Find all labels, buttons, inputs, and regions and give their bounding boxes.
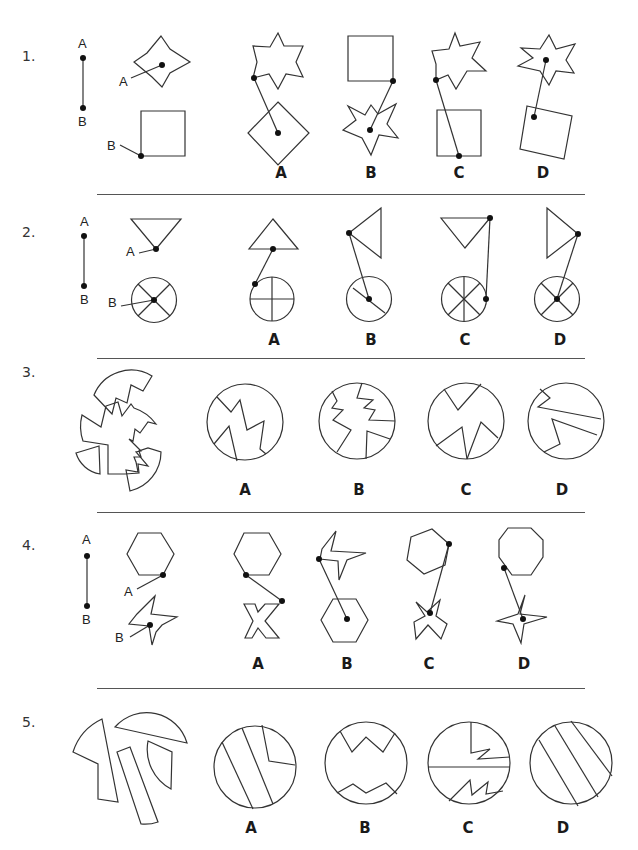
q5-option-b-figure[interactable] [325,722,407,804]
q2-key-segment [81,233,87,289]
q5-option-d-figure[interactable] [530,721,612,806]
q2-option-d-figure[interactable] [535,208,582,322]
q1-option-c-figure[interactable] [432,33,486,159]
q1-given-star-icon [131,36,190,87]
q4-key-segment [84,553,90,609]
q2-option-b-figure[interactable] [346,208,392,322]
q1-given-square-icon [120,111,185,159]
q1-key-segment [80,55,86,111]
q4-given-pinwheel-icon [129,596,177,645]
q4-option-c-figure[interactable] [407,529,452,639]
q2-given-triangle-icon [131,219,181,253]
q1-option-b-figure[interactable] [343,36,398,155]
q1-option-d-figure[interactable] [518,35,575,159]
q4-given-hexagon-icon [127,533,174,589]
q5-option-a-figure[interactable] [214,725,296,809]
q4-option-a-figure[interactable] [234,533,285,638]
q2-option-a-figure[interactable] [249,219,298,321]
q1-option-a-figure[interactable] [248,33,309,165]
q3-given-fragments-icon [76,370,161,491]
q3-option-b-figure[interactable] [319,383,395,459]
q4-option-b-figure[interactable] [316,531,368,642]
q2-given-circle-icon [121,278,177,323]
q3-option-c-figure[interactable] [428,383,504,459]
figures-canvas [0,0,638,850]
q3-option-a-figure[interactable] [207,384,283,461]
q3-option-d-figure[interactable] [528,383,604,459]
q5-given-fragments-icon [73,713,187,825]
q2-option-c-figure[interactable] [441,215,493,322]
q5-option-c-figure[interactable] [428,722,510,804]
q4-option-d-figure[interactable] [497,528,547,643]
